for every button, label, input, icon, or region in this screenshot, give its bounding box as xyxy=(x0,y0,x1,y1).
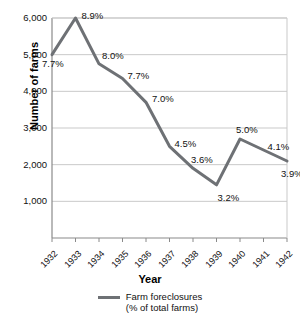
y-axis-tick-4000: 4,000 xyxy=(7,86,47,95)
y-axis-tick-2000: 2,000 xyxy=(7,160,47,169)
x-axis-title: Year xyxy=(0,273,300,285)
y-axis-tick-6000: 6,000 xyxy=(7,13,47,22)
legend-label-line1: Farm foreclosures xyxy=(126,291,203,302)
data-label-1940: 5.0% xyxy=(236,124,258,135)
data-label-1938: 3.6% xyxy=(191,154,213,165)
chart-legend: Farm foreclosures (% of total farms) xyxy=(0,291,300,313)
legend-label: Farm foreclosures (% of total farms) xyxy=(126,291,203,313)
legend-line-swatch xyxy=(98,296,120,299)
legend-label-line2: (% of total farms) xyxy=(126,302,203,313)
data-label-1933: 8.9% xyxy=(82,10,104,21)
data-label-1937: 4.5% xyxy=(175,138,197,149)
y-axis-tick-5000: 5,000 xyxy=(7,50,47,59)
data-label-1935: 7.7% xyxy=(128,70,150,81)
data-label-1941: 4.1% xyxy=(268,141,290,152)
data-label-1932: 7.7% xyxy=(42,58,64,69)
data-label-1939: 3.2% xyxy=(218,192,240,203)
data-label-1934: 8.0% xyxy=(102,50,124,61)
data-label-1936: 7.0% xyxy=(152,93,174,104)
data-label-1942: 3.9% xyxy=(281,168,300,179)
y-axis-tick-1000: 1,000 xyxy=(7,196,47,205)
chart-container: Number of farms 1,0002,0003,0004,0005,00… xyxy=(0,0,300,315)
y-axis-tick-3000: 3,000 xyxy=(7,123,47,132)
